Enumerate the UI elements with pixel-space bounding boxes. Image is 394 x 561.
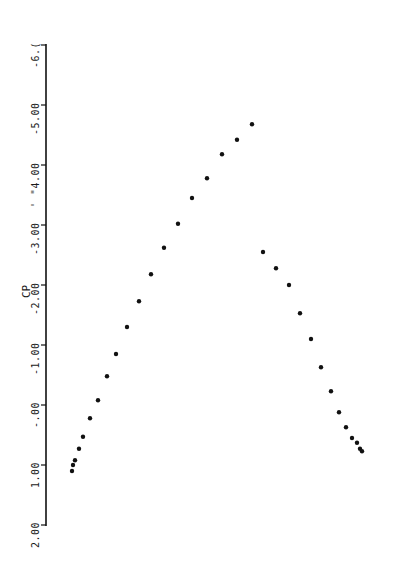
data-point xyxy=(77,447,81,451)
data-point xyxy=(70,469,74,473)
tick-label: -3.00 xyxy=(30,222,41,255)
tick-label: 1.00 xyxy=(30,462,41,488)
data-point xyxy=(125,325,129,329)
data-point xyxy=(309,337,313,341)
data-point xyxy=(337,410,341,414)
tick-label: -1.00 xyxy=(30,342,41,375)
data-point xyxy=(149,272,153,276)
data-point xyxy=(261,250,265,254)
data-point xyxy=(287,283,291,287)
data-point xyxy=(176,222,180,226)
data-point xyxy=(274,266,278,270)
data-point xyxy=(73,458,77,462)
data-point xyxy=(190,196,194,200)
tick-label: ' "4.00 xyxy=(30,162,41,208)
data-point xyxy=(319,365,323,369)
data-point xyxy=(235,138,239,142)
data-point xyxy=(88,416,92,420)
tick-label: 2.00 xyxy=(30,522,41,548)
tick-label: -6.( xyxy=(30,42,41,68)
tick-label: -.00 xyxy=(30,402,41,428)
data-point xyxy=(344,425,348,429)
data-point xyxy=(71,463,75,467)
data-point xyxy=(81,435,85,439)
axis-title: CP xyxy=(20,285,33,298)
data-point xyxy=(220,152,224,156)
data-point xyxy=(350,436,354,440)
data-point xyxy=(137,299,141,303)
data-point xyxy=(250,122,254,126)
data-point xyxy=(205,176,209,180)
data-point xyxy=(360,449,364,453)
data-points xyxy=(70,122,364,473)
data-point xyxy=(96,398,100,402)
plot-area xyxy=(0,0,394,561)
data-point xyxy=(329,389,333,393)
data-point xyxy=(162,246,166,250)
data-point xyxy=(355,441,359,445)
data-point xyxy=(105,374,109,378)
data-point xyxy=(114,352,118,356)
tick-label: -5.00 xyxy=(30,102,41,135)
data-point xyxy=(298,311,302,315)
